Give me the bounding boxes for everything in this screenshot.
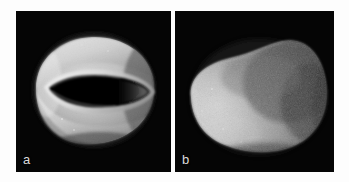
panel-label-b: b [182,153,189,166]
micrograph-panel-b: b [175,11,334,172]
panel-label-a: a [23,153,30,166]
panel-b-image [175,11,334,172]
figure-root: a [0,0,349,182]
micrograph-panel-a: a [16,11,171,172]
panel-a-image [16,11,171,172]
